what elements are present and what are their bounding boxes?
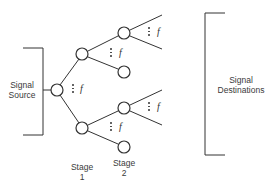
edge-root-lower — [60, 95, 79, 123]
edge-s2c-out-2 — [130, 111, 162, 125]
source-label-line1: Signal — [2, 80, 42, 90]
stage2-node-a — [118, 27, 130, 39]
stage2-node-d — [118, 141, 130, 153]
stage-2-label-line1: Stage — [108, 158, 140, 168]
stage-1-label: Stage 1 — [66, 162, 98, 182]
destinations-label: Signal Destinations — [210, 75, 272, 95]
edge-s1u-s2b — [88, 57, 118, 69]
stage1-lower-node — [76, 122, 88, 134]
stage-1-label-line1: Stage — [66, 162, 98, 172]
stage1-upper-node — [76, 48, 88, 60]
fanout-dots-icon — [148, 27, 150, 38]
stage-2-label-line2: 2 — [108, 168, 140, 178]
fanout-label-stage2-upper: f — [157, 26, 160, 37]
fanout-label-stage1-lower: f — [119, 121, 122, 132]
fanout-dots-icon — [110, 122, 112, 133]
source-label-line2: Source — [2, 90, 42, 100]
stage2-node-b — [118, 66, 130, 78]
root-node — [51, 84, 63, 96]
edge-s1l-s2d — [88, 131, 118, 144]
stage-2-label: Stage 2 — [108, 158, 140, 178]
fanout-dots-icon — [72, 84, 74, 95]
fanout-dots-icon — [148, 102, 150, 113]
destinations-label-line2: Destinations — [210, 85, 272, 95]
fanout-label-stage2-lower: f — [157, 101, 160, 112]
edge-root-upper — [60, 59, 79, 85]
edge-s2a-out-2 — [130, 36, 162, 49]
fanout-label-stage1-upper: f — [119, 47, 122, 58]
fanout-label-root: f — [80, 83, 83, 94]
source-label: Signal Source — [2, 80, 42, 100]
fanout-dots-icon — [110, 48, 112, 59]
edge-s1u-s2a — [88, 36, 118, 51]
edge-s1l-s2c — [88, 111, 118, 125]
destinations-label-line1: Signal — [210, 75, 272, 85]
stage-1-label-line2: 1 — [66, 172, 98, 182]
stage2-node-c — [118, 102, 130, 114]
